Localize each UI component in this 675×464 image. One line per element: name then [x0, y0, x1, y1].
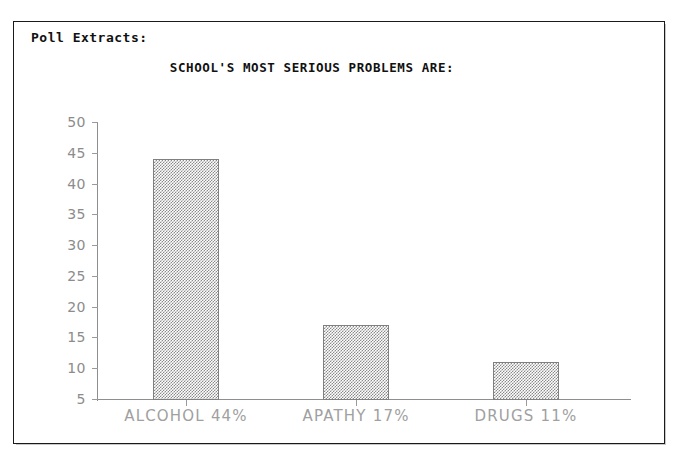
y-axis-tick-label: 5	[42, 392, 86, 406]
y-axis-tick-label: 10	[42, 361, 86, 375]
x-axis-tick	[526, 400, 527, 406]
y-axis-tick-label: 15	[42, 330, 86, 344]
y-axis-tick	[92, 184, 98, 185]
y-axis-tick	[92, 153, 98, 154]
y-axis-tick-label: 30	[42, 238, 86, 252]
y-axis-tick	[92, 276, 98, 277]
bar	[153, 159, 219, 400]
y-axis-tick-label: 50	[42, 115, 86, 129]
y-axis-tick	[92, 337, 98, 338]
x-axis-tick	[356, 400, 357, 406]
y-axis-tick	[92, 368, 98, 369]
bar	[493, 362, 559, 400]
y-axis-tick-label: 40	[42, 177, 86, 191]
x-axis-tick-label: ALCOHOL 44%	[124, 407, 248, 425]
y-axis-tick-label: 35	[42, 207, 86, 221]
x-axis-tick	[186, 400, 187, 406]
y-axis-tick-label: 25	[42, 269, 86, 283]
y-axis-tick	[92, 399, 98, 400]
x-axis-tick-label: DRUGS 11%	[474, 407, 577, 425]
y-axis-line	[97, 122, 98, 401]
plot-area: 5045403530252015105 ALCOHOL 44%APATHY 17…	[14, 22, 666, 445]
bar	[323, 325, 389, 400]
y-axis-tick	[92, 122, 98, 123]
x-axis-tick-label: APATHY 17%	[302, 407, 409, 425]
figure-frame: Poll Extracts: SCHOOL'S MOST SERIOUS PRO…	[13, 21, 665, 444]
y-axis-tick	[92, 214, 98, 215]
y-axis-tick-label: 20	[42, 300, 86, 314]
y-axis-tick	[92, 245, 98, 246]
y-axis-tick	[92, 307, 98, 308]
y-axis-tick-label: 45	[42, 146, 86, 160]
